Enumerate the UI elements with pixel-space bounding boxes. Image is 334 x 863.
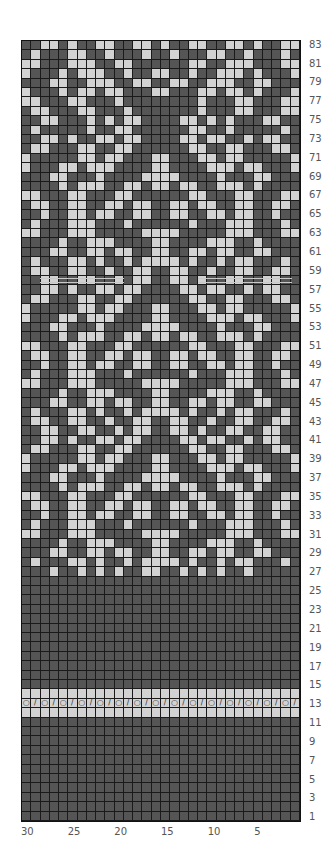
chart-cell [198,144,207,153]
chart-cell [115,746,124,755]
chart-cell [254,492,263,501]
chart-cell [96,314,105,323]
chart-cell [115,323,124,332]
chart-cell [124,323,133,332]
chart-cell [161,342,170,351]
chart-cell [235,520,244,529]
k2tog-symbol: / [68,699,77,708]
chart-cell [105,97,114,106]
chart-cell [50,238,59,247]
chart-cell [78,238,87,247]
chart-cell [161,154,170,163]
chart-cell [50,530,59,539]
chart-cell [124,642,133,651]
chart-cell [87,802,96,811]
chart-cell [22,88,31,97]
chart-cell [41,191,50,200]
chart-cell [217,727,226,736]
chart-cell [50,107,59,116]
chart-cell [68,492,77,501]
chart-cell [87,548,96,557]
chart-cell [170,426,179,435]
chart-cell [180,783,189,792]
chart-cell [133,304,142,313]
chart-cell [96,614,105,623]
chart-cell [170,765,179,774]
chart-cell [31,389,40,398]
chart-cell [217,97,226,106]
chart-cell [189,220,198,229]
chart-cell [50,661,59,670]
chart-cell [217,642,226,651]
chart-cell [180,126,189,135]
chart-cell [170,708,179,717]
chart-cell [22,708,31,717]
chart-cell [59,473,68,482]
chart-cell [115,642,124,651]
chart-cell [263,614,272,623]
chart-cell [263,755,272,764]
chart-cell [68,746,77,755]
chart-cell [124,267,133,276]
chart-cell [96,417,105,426]
chart-cell [254,144,263,153]
chart-cell [235,436,244,445]
chart-cell [87,79,96,88]
chart-cell [281,746,290,755]
chart-cell [217,238,226,247]
chart-cell [180,765,189,774]
chart-cell [189,304,198,313]
chart-cell [217,201,226,210]
chart-cell [254,342,263,351]
chart-cell [87,126,96,135]
chart-cell [272,398,281,407]
chart-cell [291,483,300,492]
chart-cell [133,577,142,586]
chart-cell [226,718,235,727]
chart-cell [189,342,198,351]
chart-cell [68,126,77,135]
chart-cell [59,417,68,426]
chart-cell [226,257,235,266]
chart-cell [59,182,68,191]
chart-cell [152,351,161,360]
chart-cell [170,595,179,604]
chart-cell [87,473,96,482]
chart-cell [41,642,50,651]
chart-cell [226,783,235,792]
chart-cell [152,595,161,604]
chart-cell [50,69,59,78]
chart-cell [254,238,263,247]
chart-cell [31,464,40,473]
chart-cell [272,802,281,811]
chart-cell [50,210,59,219]
chart-cell [281,501,290,510]
chart-cell [198,154,207,163]
chart-cell [291,511,300,520]
chart-cell [244,144,253,153]
chart-cell [115,774,124,783]
chart-cell [59,577,68,586]
chart-cell [161,680,170,689]
chart-cell [217,323,226,332]
k2tog-symbol: / [50,699,59,708]
chart-cell [87,88,96,97]
chart-cell [41,361,50,370]
chart-cell [217,567,226,576]
chart-cell [198,708,207,717]
chart-cell [31,473,40,482]
chart-cell [31,50,40,59]
chart-cell [281,539,290,548]
chart-cell [198,718,207,727]
chart-cell [180,511,189,520]
chart-cell [235,708,244,717]
chart-cell [105,295,114,304]
column-label: 30 [21,826,34,837]
chart-cell [254,154,263,163]
chart-cell [50,718,59,727]
chart-cell [31,755,40,764]
chart-cell [263,671,272,680]
chart-cell [198,492,207,501]
chart-cell [161,765,170,774]
chart-cell [152,257,161,266]
